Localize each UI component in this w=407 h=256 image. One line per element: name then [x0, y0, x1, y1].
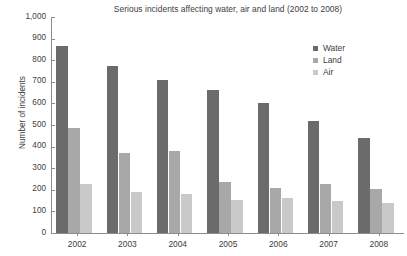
bar-water-2002	[56, 46, 68, 233]
x-axis-tick-label: 2002	[68, 239, 87, 249]
y-axis-label: Number of incidents	[18, 38, 27, 188]
y-axis-tick-mark	[52, 233, 55, 234]
y-axis-tick-label: 300	[32, 163, 46, 172]
x-axis-tick-label: 2004	[168, 239, 187, 249]
y-axis-tick-label: 800	[32, 55, 46, 64]
y-axis-tick-label: 1,000	[26, 12, 47, 21]
legend-label: Air	[323, 67, 333, 77]
y-axis-tick-label: 900	[32, 33, 46, 42]
legend-swatch-icon	[313, 70, 318, 75]
bar-water-2005	[207, 90, 219, 233]
y-axis-tick-label: 400	[32, 141, 46, 150]
legend-label: Water	[323, 43, 345, 53]
bar-air-2007	[332, 201, 344, 233]
bar-water-2004	[157, 80, 169, 233]
x-axis-tick-mark	[329, 233, 330, 236]
bar-group: 2008	[354, 17, 404, 233]
bar-chart: Serious incidents affecting water, air a…	[0, 0, 407, 256]
x-axis-tick-label: 2003	[118, 239, 137, 249]
y-axis-tick-label: 600	[32, 98, 46, 107]
legend-swatch-icon	[313, 46, 318, 51]
legend-item-air: Air	[313, 66, 345, 78]
bar-group: 2002	[52, 17, 102, 233]
x-axis-tick-label: 2008	[370, 239, 389, 249]
x-axis-tick-mark	[379, 233, 380, 236]
bar-air-2002	[80, 184, 92, 233]
bar-land-2004	[169, 151, 181, 233]
x-axis-tick-label: 2006	[269, 239, 288, 249]
bar-water-2008	[358, 138, 370, 233]
bar-water-2006	[258, 103, 270, 233]
y-axis-tick-label: 100	[32, 206, 46, 215]
bar-land-2006	[270, 188, 282, 233]
bar-land-2007	[320, 184, 332, 233]
x-axis-tick-mark	[77, 233, 78, 236]
bar-group: 2003	[102, 17, 152, 233]
x-axis-tick-mark	[278, 233, 279, 236]
legend-swatch-icon	[313, 58, 318, 63]
x-axis-tick-mark	[228, 233, 229, 236]
chart-title: Serious incidents affecting water, air a…	[58, 4, 398, 14]
bar-air-2005	[231, 200, 243, 233]
y-axis-tick-label: 500	[32, 120, 46, 129]
x-axis-tick-mark	[127, 233, 128, 236]
bar-air-2004	[181, 194, 193, 233]
y-axis-tick-label: 0	[41, 228, 46, 237]
chart-legend: WaterLandAir	[313, 42, 345, 78]
bar-air-2003	[131, 192, 143, 233]
bar-land-2005	[219, 182, 231, 233]
bar-group: 2006	[253, 17, 303, 233]
bar-water-2003	[107, 66, 119, 233]
bar-land-2008	[370, 189, 382, 233]
legend-label: Land	[323, 55, 342, 65]
x-axis-tick-label: 2005	[219, 239, 238, 249]
bar-land-2002	[68, 128, 80, 233]
y-axis-tick-label: 200	[32, 184, 46, 193]
legend-item-land: Land	[313, 54, 345, 66]
bar-land-2003	[119, 153, 131, 233]
bar-group: 2004	[153, 17, 203, 233]
bar-air-2008	[382, 203, 394, 233]
x-axis-tick-label: 2007	[319, 239, 338, 249]
plot-area: 01002003004005006007008009001,000 200220…	[51, 17, 404, 234]
bar-water-2007	[308, 121, 320, 233]
x-axis-tick-mark	[178, 233, 179, 236]
y-axis-tick-label: 700	[32, 76, 46, 85]
bar-group: 2005	[203, 17, 253, 233]
bar-air-2006	[282, 198, 294, 233]
legend-item-water: Water	[313, 42, 345, 54]
